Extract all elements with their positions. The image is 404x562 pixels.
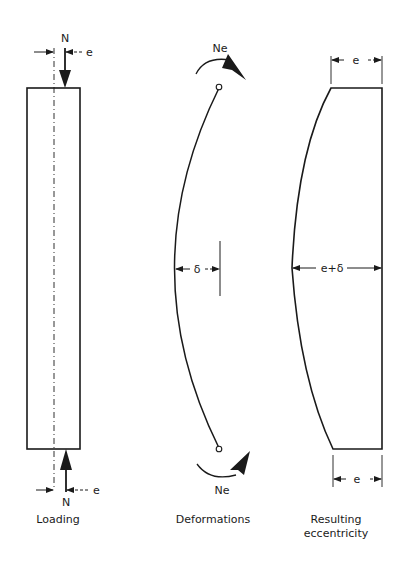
column-rectangle [27, 88, 80, 449]
loading-panel: N e e N Loading [27, 32, 100, 526]
deformations-caption: Deformations [176, 513, 251, 526]
column-eccentricity-diagram: N e e N Loading Ne [0, 0, 404, 562]
top-moment-label: Ne [213, 42, 228, 55]
bottom-hinge-icon [216, 446, 222, 452]
deflection-label: δ [194, 263, 201, 276]
top-eccentricity-label: e [86, 46, 93, 59]
bottom-moment-label: Ne [215, 484, 230, 497]
top-e-label: e [353, 54, 360, 67]
top-moment-arrow-icon [196, 54, 246, 80]
top-load-arrow-icon [59, 48, 71, 88]
deformations-panel: Ne δ Ne Deformations [175, 42, 251, 526]
mid-e-plus-delta-label: e+δ [321, 262, 344, 275]
bottom-e-label: e [354, 473, 361, 486]
resulting-eccentricity-panel: e e+δ e Resulting eccentricity [292, 54, 382, 540]
bottom-force-label: N [62, 496, 70, 509]
top-force-label: N [61, 32, 69, 45]
bottom-load-arrow-icon [60, 449, 72, 492]
bottom-eccentricity-label: e [93, 484, 100, 497]
top-hinge-icon [216, 84, 222, 90]
resulting-caption-line2: eccentricity [304, 527, 369, 540]
resulting-caption-line1: Resulting [311, 513, 362, 526]
loading-caption: Loading [36, 513, 79, 526]
bottom-moment-arrow-icon [197, 451, 250, 477]
